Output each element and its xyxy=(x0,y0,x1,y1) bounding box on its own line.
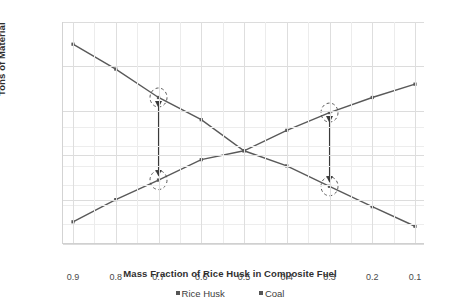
gridline-vertical xyxy=(287,22,288,243)
legend-marker-icon xyxy=(176,291,180,295)
legend-item-rice-husk[interactable]: Rice Husk xyxy=(176,288,225,299)
gridline-vertical-minor xyxy=(265,22,266,243)
legend-label-rice-husk: Rice Husk xyxy=(182,288,225,299)
gridline-vertical-minor xyxy=(351,22,352,243)
gridline-horizontal xyxy=(63,244,424,245)
gridline-vertical xyxy=(372,22,373,243)
gridline-vertical xyxy=(116,22,117,243)
gridline-vertical xyxy=(415,22,416,243)
gridline-vertical xyxy=(201,22,202,243)
gridline-vertical-minor xyxy=(394,22,395,243)
legend-marker-icon xyxy=(259,291,263,295)
gridline-vertical xyxy=(159,22,160,243)
gridline-vertical xyxy=(73,22,74,243)
plot-area: 0501001502002500.90.80.70.60.50.40.30.20… xyxy=(62,22,424,244)
gridline-vertical-minor xyxy=(137,22,138,243)
y-axis-title: Tons of Material xyxy=(0,22,7,96)
gridline-vertical-minor xyxy=(180,22,181,243)
gridline-vertical-minor xyxy=(94,22,95,243)
chart-legend: Rice Husk Coal xyxy=(0,288,460,299)
gridline-vertical-minor xyxy=(308,22,309,243)
gridline-vertical xyxy=(330,22,331,243)
x-axis-title: Mass Fraction of Rice Husk in Composite … xyxy=(0,268,460,279)
gridline-vertical xyxy=(244,22,245,243)
chart-figure: Tons of Material 0501001502002500.90.80.… xyxy=(0,0,460,308)
gridline-vertical-minor xyxy=(223,22,224,243)
legend-item-coal[interactable]: Coal xyxy=(259,288,285,299)
legend-label-coal: Coal xyxy=(265,288,285,299)
